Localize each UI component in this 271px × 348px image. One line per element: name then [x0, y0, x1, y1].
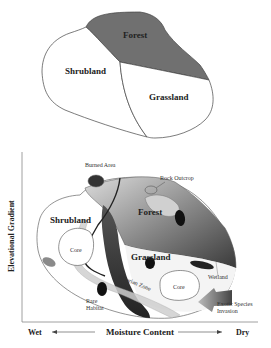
grassland-label: Grassland — [131, 252, 171, 262]
wet-arrow-head-icon — [52, 330, 57, 334]
rare-label-line2: Habitat — [86, 305, 104, 311]
top-forest-label: Forest — [123, 30, 147, 40]
top-shrubland-label: Shrubland — [65, 66, 106, 76]
top-vegetation-map: Forest Shrubland Grassland — [42, 12, 213, 138]
x-axis-wet-label: Wet — [28, 328, 42, 337]
exotic-label-line2: Invasion — [217, 308, 238, 314]
core-left-label: Core — [70, 247, 82, 253]
burned-area-patch — [88, 175, 104, 187]
exotic-label-line1: Exotic Species — [217, 301, 253, 307]
rare-label-line1: Rare — [86, 298, 98, 304]
dry-arrow-head-icon — [217, 330, 222, 334]
bottom-landscape-map: Burned Area Rock Outcrop Shrubland Fores… — [7, 152, 258, 337]
wetland-label: Wetland — [208, 274, 228, 280]
rare-habitat-patch — [97, 282, 107, 296]
landscape-diagram: Forest Shrubland Grassland — [0, 0, 271, 348]
top-grassland-label: Grassland — [149, 92, 189, 102]
y-axis-label: Elevational Gradient — [7, 200, 16, 272]
burned-area-label: Burned Area — [85, 162, 116, 168]
forest-label: Forest — [138, 207, 162, 217]
x-axis-label: Moisture Content — [106, 327, 174, 337]
core-right-label: Core — [173, 284, 185, 290]
x-axis-dry-label: Dry — [236, 328, 249, 337]
rock-outcrop-label: Rock Outcrop — [160, 175, 194, 181]
shrubland-label: Shrubland — [50, 215, 91, 225]
